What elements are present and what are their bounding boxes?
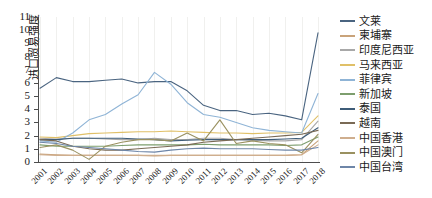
- legend-color-swatch: [340, 49, 355, 51]
- legend-item[interactable]: 中国台湾: [340, 160, 432, 175]
- legend: 文莱柬埔寨印度尼西亚马来西亚菲律宾新加坡泰国越南中国香港中国澳门中国台湾: [340, 14, 432, 175]
- legend-label: 柬埔寨: [359, 30, 392, 41]
- y-tick-label: 5: [0, 90, 30, 101]
- y-tick-label: 8: [0, 51, 30, 62]
- legend-item[interactable]: 中国澳门: [340, 145, 432, 160]
- y-tick-label: 2: [0, 130, 30, 141]
- plot-area: 01234567891011 2001200220032004200520062…: [38, 17, 320, 163]
- legend-color-swatch: [340, 35, 355, 37]
- legend-color-swatch: [340, 152, 355, 154]
- legend-color-swatch: [340, 166, 355, 168]
- series-line: [40, 116, 318, 138]
- legend-color-swatch: [340, 64, 355, 66]
- legend-color-swatch: [340, 79, 355, 81]
- legend-label: 马来西亚: [359, 60, 403, 71]
- legend-label: 中国澳门: [359, 147, 403, 158]
- legend-item[interactable]: 马来西亚: [340, 58, 432, 73]
- legend-label: 中国香港: [359, 133, 403, 144]
- y-tick-label: 0: [0, 156, 30, 167]
- legend-item[interactable]: 文莱: [340, 14, 432, 29]
- chart-figure: 进口贸易强度 01234567891011 200120022003200420…: [0, 0, 432, 198]
- legend-color-swatch: [340, 20, 355, 22]
- y-tick-label: 11: [0, 11, 30, 22]
- legend-label: 泰国: [359, 103, 381, 114]
- y-tick-label: 10: [0, 24, 30, 35]
- legend-label: 新加坡: [359, 89, 392, 100]
- legend-label: 文莱: [359, 16, 381, 27]
- legend-color-swatch: [340, 108, 355, 110]
- legend-item[interactable]: 泰国: [340, 102, 432, 117]
- legend-item[interactable]: 柬埔寨: [340, 29, 432, 44]
- legend-label: 菲律宾: [359, 74, 392, 85]
- legend-item[interactable]: 印度尼西亚: [340, 43, 432, 58]
- legend-color-swatch: [340, 137, 355, 139]
- legend-label: 越南: [359, 118, 381, 129]
- y-tick-label: 4: [0, 103, 30, 114]
- y-tick-label: 3: [0, 116, 30, 127]
- x-axis-ticks: 2001200220032004200520062007200820092010…: [38, 165, 320, 198]
- y-axis-ticks: 01234567891011: [2, 17, 38, 163]
- legend-color-swatch: [340, 93, 355, 95]
- legend-label: 中国台湾: [359, 162, 403, 173]
- legend-label: 印度尼西亚: [359, 45, 414, 56]
- y-tick-label: 6: [0, 77, 30, 88]
- series-line: [40, 141, 318, 156]
- legend-item[interactable]: 越南: [340, 116, 432, 131]
- series-line: [40, 33, 318, 120]
- legend-item[interactable]: 菲律宾: [340, 72, 432, 87]
- y-tick-label: 7: [0, 64, 30, 75]
- y-tick-label: 1: [0, 143, 30, 154]
- legend-item[interactable]: 新加坡: [340, 87, 432, 102]
- y-tick-label: 9: [0, 37, 30, 48]
- series-lines: [38, 17, 320, 163]
- legend-item[interactable]: 中国香港: [340, 131, 432, 146]
- legend-color-swatch: [340, 122, 355, 124]
